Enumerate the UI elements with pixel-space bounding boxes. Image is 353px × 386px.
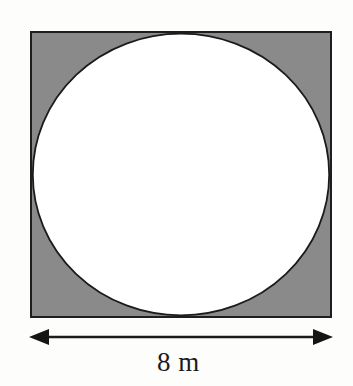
- right-arrowhead: [313, 329, 333, 345]
- width-dimension: [29, 329, 333, 345]
- geometry-figure: [0, 0, 353, 386]
- figure-canvas: 8 m: [0, 0, 353, 386]
- dimension-label: 8 m: [0, 347, 353, 377]
- left-arrowhead: [29, 329, 49, 345]
- inscribed-circle: [33, 34, 329, 316]
